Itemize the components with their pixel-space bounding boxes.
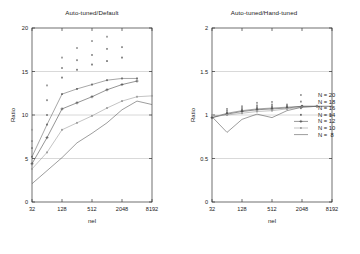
data-point: [61, 57, 63, 59]
x-axis-label: nel: [268, 218, 276, 224]
data-point: [256, 105, 258, 107]
legend-marker: [300, 107, 302, 109]
x-tick-label: 8192: [146, 206, 158, 212]
x-tick-label: 512: [267, 206, 276, 212]
series-line: [32, 78, 137, 156]
data-point: [106, 36, 108, 38]
series-n=14: [31, 78, 138, 158]
data-point: [31, 168, 33, 170]
data-point: [136, 78, 138, 80]
legend-marker: [300, 94, 302, 96]
legend-label: N = 20: [318, 92, 335, 98]
data-point: [211, 115, 213, 117]
legend-marker: [300, 101, 302, 103]
data-point: [61, 129, 63, 131]
y-tick-label: 1: [205, 112, 208, 118]
data-point: [271, 101, 273, 103]
y-tick-label: 0: [205, 199, 208, 205]
data-point: [271, 110, 273, 112]
data-point: [91, 64, 93, 66]
data-point: [76, 59, 78, 61]
y-axis-label: Ratio: [10, 107, 16, 122]
data-point: [226, 110, 228, 112]
figure-root: Auto-tuned/Default 051015203212851220488…: [0, 0, 360, 254]
data-point: [106, 48, 108, 50]
data-point: [31, 129, 33, 131]
legend-label: N = 12: [318, 118, 335, 124]
legend-marker: [300, 114, 302, 116]
data-point: [121, 46, 123, 48]
legend-label: N = 10: [318, 125, 335, 131]
data-point: [256, 111, 258, 113]
series-line: [32, 101, 152, 184]
data-point: [61, 67, 63, 69]
y-axis-label: Ratio: [190, 107, 196, 122]
data-point: [271, 104, 273, 106]
y-tick-label: 2: [205, 25, 208, 31]
data-point: [61, 93, 63, 95]
y-tick-label: 15: [22, 69, 28, 75]
data-point: [31, 147, 33, 149]
data-point: [46, 152, 48, 154]
data-point: [46, 99, 48, 101]
x-tick-label: 128: [237, 206, 246, 212]
x-tick-label: 32: [29, 206, 35, 212]
data-point: [226, 114, 228, 116]
x-tick-label: 512: [87, 206, 96, 212]
y-tick-label: 20: [22, 25, 28, 31]
data-point: [136, 96, 138, 98]
data-point: [106, 107, 108, 109]
data-point: [76, 88, 78, 90]
plot-area-left: 051015203212851220488192nelRatio: [0, 0, 180, 254]
legend-marker: [300, 127, 302, 129]
y-tick-label: 10: [22, 112, 28, 118]
legend-label: N = 8: [318, 132, 334, 138]
data-point: [91, 40, 93, 42]
data-point: [31, 156, 33, 158]
data-point: [226, 108, 228, 110]
data-point: [241, 112, 243, 114]
data-point: [106, 60, 108, 62]
legend-label: N = 14: [318, 112, 336, 118]
data-point: [46, 124, 48, 126]
y-tick-label: 1.5: [200, 69, 208, 75]
data-point: [76, 47, 78, 49]
data-point: [31, 140, 33, 142]
plot-area-right: 00.511.523212851220488192nelRatioN = 20N…: [180, 0, 360, 254]
legend-label: N = 18: [318, 99, 335, 105]
data-point: [121, 57, 123, 59]
x-tick-label: 2048: [116, 206, 128, 212]
data-point: [256, 102, 258, 104]
x-axis-label: nel: [88, 218, 96, 224]
chart-panel-auto-tuned-hand-tuned: Auto-tuned/Hand-tuned 00.511.52321285122…: [180, 0, 360, 254]
data-point: [91, 84, 93, 86]
data-point: [76, 122, 78, 124]
chart-panel-auto-tuned-default: Auto-tuned/Default 051015203212851220488…: [0, 0, 180, 254]
data-point: [121, 78, 123, 80]
x-tick-label: 32: [209, 206, 215, 212]
data-point: [46, 85, 48, 87]
data-point: [46, 114, 48, 116]
x-tick-label: 128: [57, 206, 66, 212]
y-tick-label: 0.5: [200, 156, 208, 162]
series-n=8: [32, 101, 152, 184]
data-point: [106, 79, 108, 81]
data-point: [241, 105, 243, 107]
data-point: [286, 108, 288, 110]
y-tick-label: 0: [25, 199, 28, 205]
data-point: [121, 100, 123, 102]
y-tick-label: 5: [25, 156, 28, 162]
x-tick-label: 2048: [296, 206, 308, 212]
data-point: [241, 107, 243, 109]
data-point: [91, 115, 93, 117]
data-point: [151, 95, 153, 97]
data-point: [271, 105, 273, 107]
data-point: [256, 106, 258, 108]
data-point: [61, 77, 63, 79]
data-point: [76, 69, 78, 71]
series-n=18: [31, 46, 123, 142]
x-tick-label: 8192: [326, 206, 338, 212]
data-point: [91, 54, 93, 56]
legend-label: N = 16: [318, 105, 335, 111]
